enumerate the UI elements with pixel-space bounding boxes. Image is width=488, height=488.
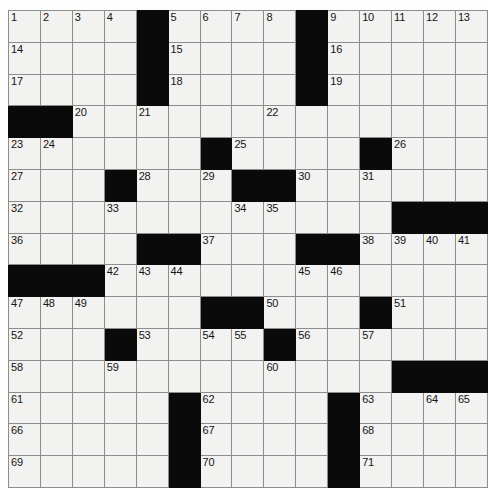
letter-cell[interactable] (296, 392, 328, 424)
letter-cell[interactable] (423, 42, 455, 74)
letter-cell[interactable] (455, 42, 487, 74)
letter-cell[interactable]: 26 (392, 138, 424, 170)
letter-cell[interactable]: 30 (296, 169, 328, 201)
letter-cell[interactable] (328, 138, 360, 170)
letter-cell[interactable] (104, 297, 136, 329)
letter-cell[interactable]: 3 (72, 11, 104, 43)
letter-cell[interactable]: 4 (104, 11, 136, 43)
letter-cell[interactable] (232, 424, 264, 456)
letter-cell[interactable]: 16 (328, 42, 360, 74)
letter-cell[interactable] (40, 74, 72, 106)
letter-cell[interactable]: 28 (136, 169, 168, 201)
letter-cell[interactable] (360, 201, 392, 233)
letter-cell[interactable]: 59 (104, 360, 136, 392)
letter-cell[interactable] (232, 456, 264, 488)
letter-cell[interactable]: 34 (232, 201, 264, 233)
letter-cell[interactable]: 33 (104, 201, 136, 233)
letter-cell[interactable] (200, 74, 232, 106)
letter-cell[interactable] (40, 360, 72, 392)
letter-cell[interactable]: 5 (168, 11, 200, 43)
letter-cell[interactable] (328, 106, 360, 138)
letter-cell[interactable] (328, 169, 360, 201)
letter-cell[interactable]: 8 (264, 11, 296, 43)
letter-cell[interactable] (423, 297, 455, 329)
letter-cell[interactable] (264, 138, 296, 170)
letter-cell[interactable] (136, 360, 168, 392)
letter-cell[interactable] (72, 74, 104, 106)
letter-cell[interactable]: 53 (136, 328, 168, 360)
letter-cell[interactable]: 10 (360, 11, 392, 43)
letter-cell[interactable]: 14 (9, 42, 41, 74)
letter-cell[interactable]: 31 (360, 169, 392, 201)
letter-cell[interactable]: 19 (328, 74, 360, 106)
letter-cell[interactable]: 49 (72, 297, 104, 329)
letter-cell[interactable] (168, 297, 200, 329)
letter-cell[interactable] (455, 106, 487, 138)
letter-cell[interactable] (136, 392, 168, 424)
letter-cell[interactable] (136, 138, 168, 170)
letter-cell[interactable] (392, 328, 424, 360)
letter-cell[interactable] (423, 74, 455, 106)
letter-cell[interactable] (200, 265, 232, 297)
letter-cell[interactable]: 52 (9, 328, 41, 360)
letter-cell[interactable]: 15 (168, 42, 200, 74)
letter-cell[interactable] (104, 106, 136, 138)
letter-cell[interactable]: 2 (40, 11, 72, 43)
letter-cell[interactable] (72, 424, 104, 456)
letter-cell[interactable] (136, 201, 168, 233)
letter-cell[interactable] (455, 169, 487, 201)
letter-cell[interactable]: 43 (136, 265, 168, 297)
letter-cell[interactable] (264, 74, 296, 106)
letter-cell[interactable] (423, 169, 455, 201)
letter-cell[interactable]: 18 (168, 74, 200, 106)
letter-cell[interactable]: 24 (40, 138, 72, 170)
letter-cell[interactable] (40, 456, 72, 488)
letter-cell[interactable] (296, 360, 328, 392)
letter-cell[interactable] (168, 201, 200, 233)
letter-cell[interactable] (40, 424, 72, 456)
letter-cell[interactable] (296, 138, 328, 170)
letter-cell[interactable]: 1 (9, 11, 41, 43)
letter-cell[interactable]: 21 (136, 106, 168, 138)
letter-cell[interactable] (40, 42, 72, 74)
letter-cell[interactable] (72, 360, 104, 392)
letter-cell[interactable]: 54 (200, 328, 232, 360)
letter-cell[interactable]: 6 (200, 11, 232, 43)
letter-cell[interactable]: 22 (264, 106, 296, 138)
letter-cell[interactable] (264, 233, 296, 265)
letter-cell[interactable]: 55 (232, 328, 264, 360)
letter-cell[interactable] (392, 74, 424, 106)
letter-cell[interactable] (72, 392, 104, 424)
letter-cell[interactable]: 57 (360, 328, 392, 360)
letter-cell[interactable] (168, 106, 200, 138)
letter-cell[interactable] (392, 265, 424, 297)
letter-cell[interactable] (72, 456, 104, 488)
letter-cell[interactable]: 9 (328, 11, 360, 43)
letter-cell[interactable] (360, 360, 392, 392)
letter-cell[interactable] (392, 456, 424, 488)
letter-cell[interactable] (296, 456, 328, 488)
letter-cell[interactable] (264, 42, 296, 74)
letter-cell[interactable] (264, 392, 296, 424)
letter-cell[interactable]: 68 (360, 424, 392, 456)
letter-cell[interactable] (40, 233, 72, 265)
letter-cell[interactable] (264, 424, 296, 456)
letter-cell[interactable]: 67 (200, 424, 232, 456)
letter-cell[interactable] (360, 42, 392, 74)
letter-cell[interactable]: 25 (232, 138, 264, 170)
letter-cell[interactable]: 35 (264, 201, 296, 233)
letter-cell[interactable] (104, 456, 136, 488)
letter-cell[interactable] (104, 392, 136, 424)
letter-cell[interactable]: 12 (423, 11, 455, 43)
letter-cell[interactable]: 27 (9, 169, 41, 201)
letter-cell[interactable] (168, 360, 200, 392)
letter-cell[interactable] (296, 106, 328, 138)
letter-cell[interactable] (232, 42, 264, 74)
letter-cell[interactable] (104, 74, 136, 106)
letter-cell[interactable] (392, 424, 424, 456)
letter-cell[interactable]: 36 (9, 233, 41, 265)
letter-cell[interactable] (232, 360, 264, 392)
letter-cell[interactable] (168, 169, 200, 201)
letter-cell[interactable]: 71 (360, 456, 392, 488)
letter-cell[interactable]: 58 (9, 360, 41, 392)
